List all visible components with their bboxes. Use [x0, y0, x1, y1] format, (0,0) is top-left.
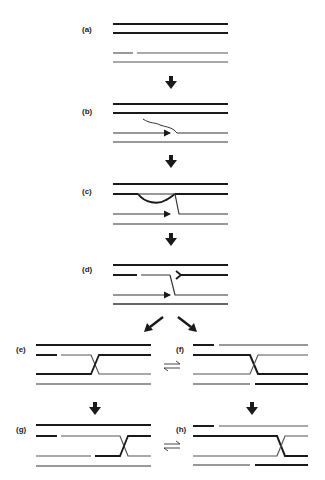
panel-f: (f): [176, 345, 308, 384]
equilibrium-arrows-icon: [164, 361, 180, 371]
panel-label-a: (a): [82, 25, 92, 34]
panel-a: (a): [82, 24, 228, 62]
panel-b: (b): [82, 104, 228, 142]
down-arrow-icon: [89, 402, 101, 415]
panel-c: (c): [82, 184, 228, 224]
panel-e: (e): [16, 345, 151, 384]
panel-label-h: (h): [176, 425, 187, 434]
panel-d: (d): [82, 265, 228, 304]
equilibrium-arrows-icon: [164, 441, 180, 451]
panel-label-c: (c): [82, 187, 92, 196]
panel-label-e: (e): [16, 345, 26, 354]
recombination-diagram: (a) (b) (c): [0, 0, 325, 480]
down-arrow-icon: [246, 402, 258, 415]
panel-label-d: (d): [82, 265, 93, 274]
panel-g: (g): [16, 425, 151, 466]
diagonal-arrow-icon: [178, 317, 197, 332]
diagonal-arrow-icon: [144, 317, 163, 332]
panel-label-f: (f): [176, 345, 184, 354]
panel-h: (h): [176, 425, 308, 465]
down-arrow-icon: [165, 76, 177, 89]
down-arrow-icon: [165, 233, 177, 246]
down-arrow-icon: [165, 155, 177, 168]
panel-label-g: (g): [16, 425, 27, 434]
panel-label-b: (b): [82, 107, 93, 116]
